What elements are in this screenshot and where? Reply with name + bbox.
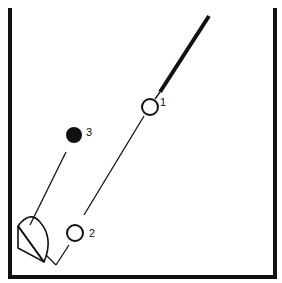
thin-line-lower <box>56 245 69 265</box>
thin-line-hook <box>46 255 56 265</box>
thin-line-ball <box>30 152 66 225</box>
ring-2 <box>67 225 83 241</box>
label-3: 3 <box>86 126 92 138</box>
ring-1 <box>142 99 158 115</box>
diagram-canvas: 1 2 3 <box>0 0 282 283</box>
label-1: 1 <box>160 96 166 108</box>
diagram-svg: 1 2 3 <box>0 0 282 283</box>
thick-rod <box>160 16 209 92</box>
container <box>10 10 275 277</box>
thin-line-middle <box>84 116 144 215</box>
label-2: 2 <box>89 227 95 239</box>
ball-3 <box>66 127 82 143</box>
protractor-device <box>18 217 48 262</box>
